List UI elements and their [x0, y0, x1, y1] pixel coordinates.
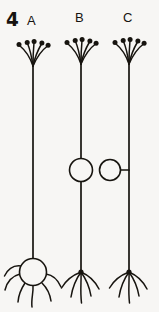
basal-dendrite-a-2: [5, 274, 20, 290]
apical-bulb-a-2: [25, 40, 30, 45]
apical-bulb-a-1: [17, 42, 22, 47]
apical-tuft-b: [65, 37, 99, 64]
apical-tuft-a: [17, 39, 51, 66]
apical-bulb-a-4: [39, 41, 44, 46]
soma-c: [100, 160, 121, 181]
neuron-diagram-c: [100, 37, 148, 303]
apical-bulb-b-3: [80, 37, 85, 42]
basal-dendrite-b-1: [62, 272, 82, 288]
neuron-diagram-svg: [0, 0, 159, 312]
apical-bulb-c-4: [135, 39, 140, 44]
basal-dendrite-a-3: [18, 283, 25, 302]
basal-dendrite-c-5: [129, 272, 147, 289]
neuron-diagram-b: [62, 37, 100, 303]
apical-bulb-b-1: [65, 40, 70, 45]
apical-bulb-c-1: [113, 40, 118, 45]
soma-b: [70, 159, 93, 182]
apical-bulb-b-2: [73, 38, 78, 43]
apical-bulb-c-3: [128, 37, 133, 42]
basal-dendrite-c-4: [129, 272, 139, 296]
basal-dendrite-b-4: [81, 272, 91, 296]
basal-dendrite-b-5: [81, 272, 99, 289]
apical-bulb-c-5: [142, 41, 147, 46]
soma-a: [20, 259, 47, 286]
figure-panel: 4 A B C: [0, 0, 159, 312]
apical-bulb-a-5: [46, 43, 51, 48]
basal-dendrite-c-1: [110, 272, 130, 288]
basal-dendrites-c: [110, 269, 148, 303]
apical-bulb-b-4: [87, 39, 92, 44]
basal-dendrite-b-3: [81, 272, 82, 303]
basal-hub-c: [126, 269, 131, 274]
apical-bulb-a-3: [32, 39, 37, 44]
basal-dendrites-b: [62, 269, 100, 303]
neuron-diagram-a: [5, 39, 62, 307]
apical-bulb-c-2: [121, 38, 126, 43]
basal-dendrite-a-6: [46, 274, 61, 287]
basal-dendrite-a-4: [32, 286, 33, 307]
basal-hub-b: [78, 269, 83, 274]
basal-dendrite-c-3: [129, 272, 130, 303]
apical-tuft-c: [113, 37, 147, 64]
basal-dendrite-a-5: [42, 283, 51, 301]
apical-bulb-b-5: [94, 41, 99, 46]
